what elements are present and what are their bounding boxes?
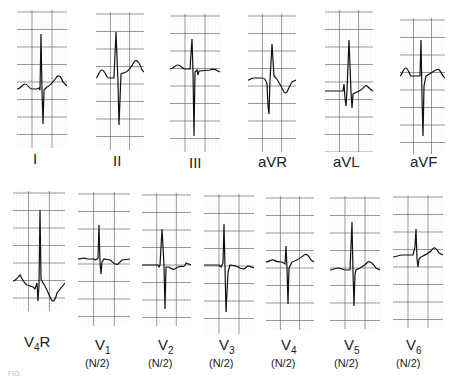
ecg-trace — [13, 210, 65, 301]
lead-label-v4r: V4R — [24, 333, 50, 353]
lead-label-iii: III — [189, 154, 202, 171]
ecg-trace — [170, 39, 220, 136]
ecg-strip-ii — [96, 12, 144, 150]
ecg-strip-v3 — [204, 194, 254, 334]
lead-label-avr: aVR — [258, 153, 287, 170]
lead-label-avf: aVF — [410, 153, 438, 170]
ecg-strip-v4 — [266, 196, 314, 330]
ecg-trace — [393, 229, 443, 267]
ecg-strip-v4r — [13, 191, 65, 311]
ecg-strip-v5 — [330, 196, 380, 329]
ecg-trace — [330, 222, 380, 306]
lead-label-avl: aVL — [333, 153, 360, 170]
ecg-strip-iii — [170, 14, 220, 152]
lead-label-v5: V5 — [344, 336, 360, 356]
lead-scale-note: (N/2) — [85, 357, 109, 369]
lead-label-v6: V6 — [406, 336, 422, 356]
ecg-strip-i — [17, 10, 67, 148]
ecg-trace — [204, 224, 254, 312]
ecg-strip-avr — [248, 14, 296, 152]
ecg-trace — [78, 225, 130, 274]
lead-scale-note: (N/2) — [271, 357, 295, 369]
lead-label-ii: II — [113, 152, 121, 169]
ecg-strip-avf — [400, 18, 445, 154]
lead-label-v2: V2 — [158, 336, 174, 356]
lead-label-v1: V1 — [95, 336, 111, 356]
figure-caption: FIG. — [8, 370, 22, 377]
lead-label-i: I — [33, 150, 37, 167]
ecg-trace — [266, 246, 314, 304]
ecg-trace — [325, 40, 373, 108]
ecg-strip-v6 — [393, 195, 443, 328]
lead-scale-note: (N/2) — [334, 357, 358, 369]
ecg-strip-v1 — [78, 192, 130, 326]
lead-scale-note: (N/2) — [209, 357, 233, 369]
ecg-trace — [17, 34, 67, 124]
ecg-strip-v2 — [142, 193, 191, 326]
lead-scale-note: (N/2) — [396, 357, 420, 369]
ecg-strip-avl — [325, 10, 373, 152]
lead-scale-note: (N/2) — [148, 357, 172, 369]
lead-label-v4: V4 — [281, 336, 297, 356]
lead-label-v3: V3 — [219, 336, 235, 356]
ecg-trace — [400, 40, 445, 136]
